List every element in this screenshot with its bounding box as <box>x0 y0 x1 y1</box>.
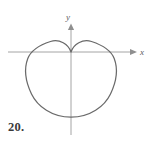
figure-number-label: 20. <box>8 120 24 134</box>
figure-container: y x 20. <box>0 0 161 141</box>
y-axis-label: y <box>65 12 70 22</box>
x-axis-label: x <box>139 47 144 57</box>
x-axis-arrow-icon <box>130 49 137 55</box>
y-axis-arrow-icon <box>68 24 74 31</box>
